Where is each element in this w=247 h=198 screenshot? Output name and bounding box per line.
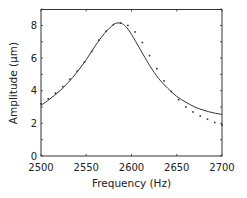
x-tick-label: 2550 [74,162,99,173]
data-point [142,42,144,44]
x-axis-title: Frequency (Hz) [92,177,171,189]
data-point [91,51,93,53]
data-point [178,99,180,101]
x-tick-label: 2500 [28,162,53,173]
amplitude-frequency-chart: 25002550260026502700 02468 Frequency (Hz… [0,0,247,198]
data-point [207,118,209,120]
data-point [113,24,115,26]
data-point [134,31,136,33]
data-point [69,78,71,80]
x-tick-label: 2700 [209,162,234,173]
data-point [62,86,64,88]
y-axis-title: Amplitude (μm) [7,42,19,124]
y-tick-label: 0 [31,151,37,162]
data-point [214,122,216,124]
series-layer [40,22,223,126]
y-tick-label: 2 [31,118,37,129]
y-tick-label: 8 [31,20,37,31]
y-axis-ticks: 02468 [31,9,222,161]
x-tick-label: 2650 [164,162,189,173]
data-point [199,115,201,117]
fit-curve [41,23,222,114]
data-point [98,39,100,41]
data-point [149,55,151,57]
y-tick-label: 4 [31,85,37,96]
data-point [163,80,165,82]
data-point [84,61,86,63]
x-tick-label: 2600 [119,162,144,173]
data-point [105,30,107,32]
data-point [192,111,194,113]
data-point [171,91,173,93]
y-tick-label: 6 [31,53,37,64]
data-point [55,92,57,94]
data-point [156,68,158,70]
data-point [120,22,122,24]
data-point [47,98,49,100]
data-point [185,106,187,108]
data-point [127,25,129,27]
data-point [76,70,78,72]
